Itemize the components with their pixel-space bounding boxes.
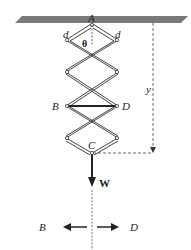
- weight-arrowhead-icon: [88, 177, 96, 187]
- label-w: W: [99, 177, 110, 189]
- fbd-right-arrowhead-icon: [111, 223, 119, 231]
- label-d-left: d: [63, 28, 69, 40]
- y-arrowhead-icon: [150, 147, 156, 153]
- label-d-right: d: [115, 28, 121, 40]
- label-c: C: [88, 139, 96, 151]
- scissor-linkage-diagram: A d d θ B D C y W B D: [0, 0, 191, 250]
- label-a: A: [87, 12, 95, 24]
- label-d: D: [121, 100, 130, 112]
- label-fbd-d: D: [129, 221, 138, 233]
- label-y: y: [145, 83, 151, 95]
- fbd-left-arrowhead-icon: [63, 223, 71, 231]
- label-fbd-b: B: [39, 221, 46, 233]
- label-theta: θ: [82, 38, 87, 49]
- label-b: B: [52, 100, 59, 112]
- ceiling-bar: [15, 16, 188, 23]
